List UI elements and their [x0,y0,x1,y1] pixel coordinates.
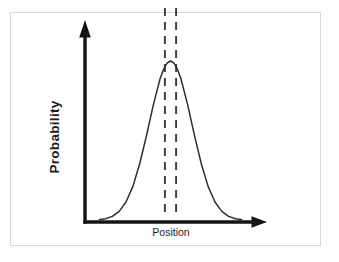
y-axis-label: Probability [47,100,62,173]
probability-curve [99,61,243,220]
dashed-guides [165,8,176,217]
screenshot-canvas: { "figure": { "ylabel": "Probability", "… [0,0,339,262]
figure-frame: Probability Position [10,12,321,246]
y-axis-arrowhead-icon [79,20,91,38]
x-axis-arrowhead-icon [252,216,268,228]
x-axis-label: Position [152,226,189,238]
